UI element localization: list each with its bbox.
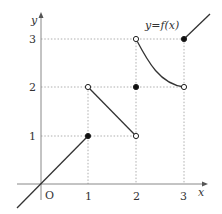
- open-point-2-3: [133, 36, 138, 41]
- y-tick-2: 2: [29, 81, 36, 94]
- piece-2: [88, 87, 136, 136]
- closed-point-2-2: [133, 84, 138, 89]
- piece-3: [136, 39, 184, 87]
- origin-label: O: [45, 189, 54, 202]
- closed-point-1-1: [85, 133, 90, 138]
- y-axis-label: y: [30, 14, 38, 27]
- open-point-1-2: [85, 84, 90, 89]
- closed-point-3-3: [181, 36, 186, 41]
- x-axis-label: x: [198, 186, 205, 199]
- x-tick-3: 3: [180, 190, 187, 203]
- x-tick-1: 1: [85, 190, 92, 203]
- axes: [17, 15, 205, 200]
- function-curve: [17, 14, 210, 208]
- points: [85, 36, 186, 138]
- open-point-3-2: [181, 84, 186, 89]
- function-label: y=f(x): [144, 19, 179, 32]
- function-graph: y x O 1 2 3 1 2 3 y=f(x): [0, 0, 222, 214]
- open-point-2-1: [133, 133, 138, 138]
- piece-4: [184, 14, 210, 39]
- y-axis-arrow-icon: [39, 12, 44, 18]
- x-tick-2: 2: [133, 190, 140, 203]
- y-tick-3: 3: [29, 33, 36, 46]
- y-tick-1: 1: [29, 130, 36, 143]
